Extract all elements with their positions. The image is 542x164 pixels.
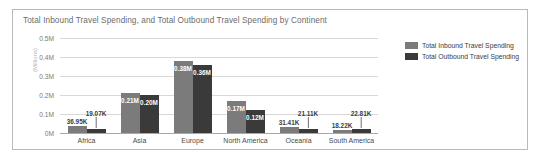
bar-inbound[interactable]: 0.17M <box>227 101 246 133</box>
plot-area: 36.95K19.07KAfrica0.21M0.20MAsia0.38M0.3… <box>60 38 378 133</box>
legend-item-inbound[interactable]: Total Inbound Travel Spending <box>405 42 519 49</box>
bar-value-label: 0.21M <box>121 97 139 104</box>
bar-value-label: 18.22K <box>332 122 353 129</box>
bar-outbound[interactable]: 22.81K <box>352 129 371 133</box>
bar-value-label: 19.07K <box>86 110 107 117</box>
bar-inbound[interactable]: 36.95K <box>68 126 87 133</box>
y-tick-label: 0.4M <box>39 54 54 61</box>
bar-inbound[interactable]: 0.38M <box>174 61 193 133</box>
bar-group: 36.95K19.07KAfrica <box>60 38 113 133</box>
bar-outbound[interactable]: 19.07K <box>87 129 106 133</box>
bar-outbound[interactable]: 0.36M <box>193 65 212 133</box>
bar-inbound[interactable]: 0.21M <box>121 93 140 133</box>
bar-value-label: 0.20M <box>140 99 158 106</box>
bar-outbound[interactable]: 0.12M <box>246 110 265 133</box>
bar-outbound[interactable]: 21.11K <box>299 129 318 133</box>
bar-group: 18.22K22.81KSouth America <box>325 38 378 133</box>
x-category-label: Europe <box>181 137 204 144</box>
bar-value-label: 0.17M <box>227 105 245 112</box>
legend-label-outbound: Total Outbound Travel Spending <box>422 53 519 60</box>
legend-item-outbound[interactable]: Total Outbound Travel Spending <box>405 53 519 60</box>
chart-legend: Total Inbound Travel Spending Total Outb… <box>405 42 519 64</box>
bar-group: 0.38M0.36MEurope <box>166 38 219 133</box>
legend-label-inbound: Total Inbound Travel Spending <box>422 42 514 49</box>
bar-value-label: 0.38M <box>174 65 192 72</box>
y-axis-tick-labels: 0M0.1M0.2M0.3M0.4M0.5M <box>13 38 58 133</box>
outbound-swatch-icon <box>405 53 418 60</box>
bar-value-label: 36.95K <box>67 118 88 125</box>
inbound-swatch-icon <box>405 42 418 49</box>
bar-value-label: 22.81K <box>351 110 372 117</box>
gridline <box>60 133 378 134</box>
y-tick-label: 0.1M <box>39 111 54 118</box>
bar-outbound[interactable]: 0.20M <box>140 95 159 133</box>
bar-value-label: 31.41K <box>279 119 300 126</box>
y-tick-label: 0M <box>45 130 54 137</box>
x-category-label: South America <box>329 137 375 144</box>
bar-group: 0.21M0.20MAsia <box>113 38 166 133</box>
chart-card: Total Inbound Travel Spending, and Total… <box>12 9 528 150</box>
x-category-label: Oceania <box>285 137 311 144</box>
y-tick-label: 0.3M <box>39 73 54 80</box>
y-tick-label: 0.5M <box>39 35 54 42</box>
bar-inbound[interactable]: 18.22K <box>333 130 352 133</box>
x-category-label: Asia <box>133 137 147 144</box>
y-tick-label: 0.2M <box>39 92 54 99</box>
bar-value-label: 21.11K <box>298 110 318 117</box>
x-category-label: Africa <box>78 137 96 144</box>
bar-group: 0.17M0.12MNorth America <box>219 38 272 133</box>
bar-value-label: 0.36M <box>193 69 211 76</box>
bar-value-label: 0.12M <box>246 114 264 121</box>
x-category-label: North America <box>223 137 267 144</box>
bar-group: 31.41K21.11KOceania <box>272 38 325 133</box>
bar-groups: 36.95K19.07KAfrica0.21M0.20MAsia0.38M0.3… <box>60 38 378 133</box>
chart-title: Total Inbound Travel Spending, and Total… <box>23 16 327 25</box>
bar-inbound[interactable]: 31.41K <box>280 127 299 133</box>
